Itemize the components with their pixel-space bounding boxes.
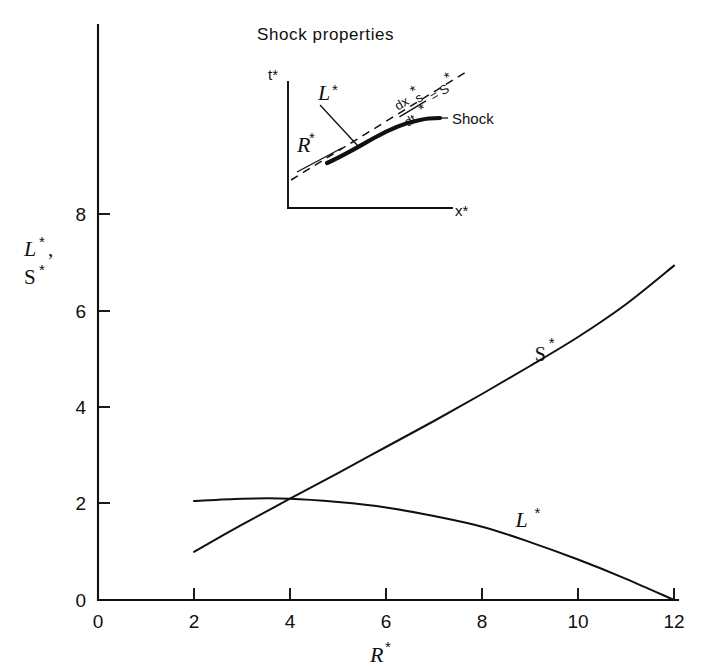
series-label-l-star: * xyxy=(535,504,541,521)
x-axis-title-glyph: R xyxy=(369,642,384,667)
series-label-s-star: * xyxy=(549,334,555,351)
inset-label-l-star: * xyxy=(332,81,338,98)
inset-characteristic-l-leader xyxy=(320,105,358,146)
x-tick-label-10: 10 xyxy=(567,611,588,632)
x-axis-ticks xyxy=(98,588,674,600)
y-tick-label-2: 2 xyxy=(75,493,86,514)
chart-canvas: 0 2 4 6 8 10 12 0 2 4 6 8 R * xyxy=(0,0,701,668)
inset-label-l: L * xyxy=(317,80,338,105)
x-axis-tick-labels: 0 2 4 6 8 10 12 xyxy=(93,611,685,632)
y-axis-title-separator: , xyxy=(48,237,53,261)
y-axis-ticks xyxy=(98,214,110,600)
y-axis-tick-labels: 0 2 4 6 8 xyxy=(75,204,86,611)
inset-x-axis-label-glyph: x* xyxy=(455,202,469,219)
y-axis-title-glyph-s: S xyxy=(24,265,36,289)
inset-shock-curve xyxy=(327,118,440,163)
inset-x-axis-label: x* xyxy=(455,202,469,219)
series-curve-l xyxy=(194,498,674,600)
y-axis-title-star-s: * xyxy=(39,261,45,278)
series-label-s-glyph: S xyxy=(535,343,546,365)
inset-label-l-glyph: L xyxy=(317,80,330,105)
inset-y-axis-label-glyph: t* xyxy=(268,66,278,83)
inset-label-r: R * xyxy=(296,129,315,157)
inset-title: Shock properties xyxy=(257,25,394,44)
series-label-s: S * xyxy=(535,334,555,365)
y-axis-title: L * , S * xyxy=(23,233,53,289)
y-axis-title-star-l: * xyxy=(39,233,45,250)
x-tick-label-8: 8 xyxy=(477,611,488,632)
x-tick-label-0: 0 xyxy=(93,611,104,632)
y-tick-label-6: 6 xyxy=(75,301,86,322)
x-tick-label-6: 6 xyxy=(381,611,392,632)
x-tick-label-4: 4 xyxy=(285,611,296,632)
x-tick-label-12: 12 xyxy=(663,611,684,632)
series-label-l: L * xyxy=(515,504,541,532)
series-curve-s-path xyxy=(194,266,674,552)
inset-shock-label: Shock xyxy=(452,110,494,127)
y-axis-title-glyph-l: L xyxy=(23,236,36,261)
inset-slope-numerator: dx xyxy=(392,93,412,113)
y-tick-label-4: 4 xyxy=(75,397,86,418)
x-axis-title: R * xyxy=(369,638,391,667)
inset-diagram: Shock properties t* x* Shock xyxy=(257,25,494,219)
inset-label-r-star: * xyxy=(309,129,315,146)
y-tick-label-8: 8 xyxy=(75,204,86,225)
inset-y-axis-label: t* xyxy=(268,66,278,83)
y-tick-label-0: 0 xyxy=(75,590,86,611)
x-tick-label-2: 2 xyxy=(189,611,200,632)
x-axis-title-star: * xyxy=(385,638,391,655)
main-axes xyxy=(98,25,678,600)
series-label-l-glyph: L xyxy=(515,507,528,532)
inset-slope-numerator-star: * xyxy=(407,81,421,99)
figure-root: 0 2 4 6 8 10 12 0 2 4 6 8 R * xyxy=(0,0,701,668)
